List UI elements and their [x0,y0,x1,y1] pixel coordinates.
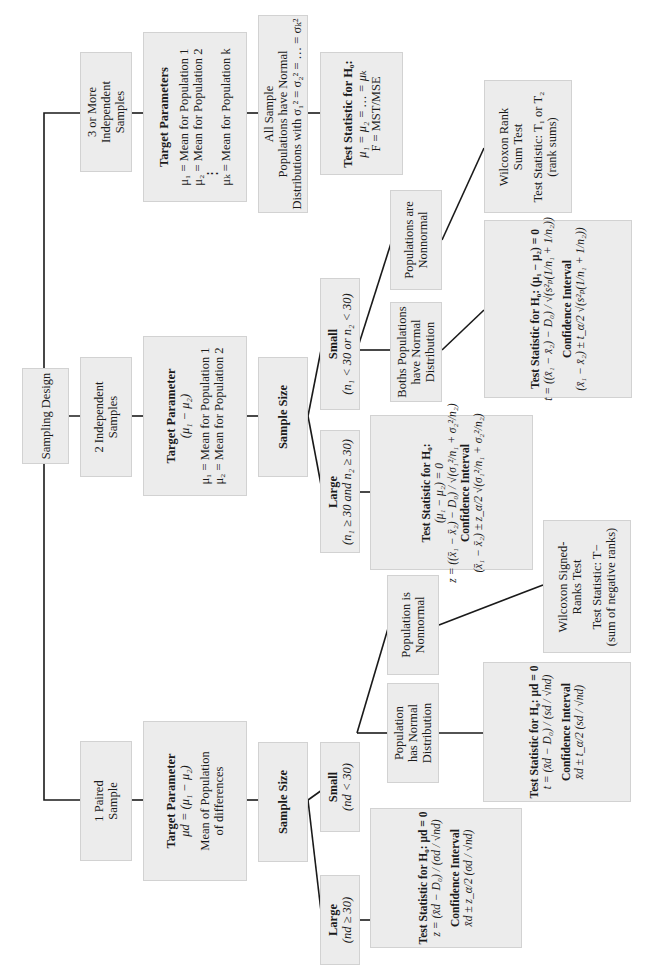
small-2indep-node: Small (n₁ < 30 or n₂ < 30) [320,278,360,410]
target-line: μ₂ = Mean for Population 2 [191,48,205,185]
ci-formula: x̄d ± z_α/2 (σd / √nd) [462,812,475,945]
ci-formula: (x̄₁ − x̄₂) ± t_α/2 √(s²ₚ(1/n₁ + 1/n₂)) [574,217,587,401]
wilcoxon-signed-ranks-node: Wilcoxon Signed- Ranks Test Test Statist… [543,520,631,653]
large-title: Large [326,439,340,545]
test-stat: (sum of negative ranks) [604,527,618,645]
z-test-2indep-node: Test Statistic for H₀: (μ₁ − μ₂) = 0 z =… [370,415,533,570]
two-independent-samples-node: 2 Independent Samples [80,357,132,477]
sample-size-paired-node: Sample Size [258,742,308,862]
large-title: Large [326,897,340,943]
small-condition: (nd < 30) [340,763,354,811]
target-subtitle: (μ₁ − μ₂) [178,347,192,484]
large-paired-node: Large (nd ≥ 30) [320,875,360,965]
ci-title: Confidence Interval [449,812,462,945]
test-line: Ranks Test [570,527,584,645]
small-title: Small [326,293,340,394]
small-paired-node: Small (nd < 30) [320,742,360,832]
one-paired-sample-node: 1 Paired Sample [80,741,132,861]
test-line: Wilcoxon Rank [497,91,511,202]
test-stat: (rank sums) [545,91,559,202]
test-stat: Test Statistic: T− [590,527,604,645]
ci-title: Confidence Interval [560,666,573,799]
condition-line: Population is [399,592,413,658]
large-2indep-node: Large (n₁ ≥ 30 and n₂ ≥ 30) [320,430,360,553]
test-formula: t = ((x̄₁ − x̄₂) − D₀) / √(s²ₚ(1/n₁ + 1/… [542,217,555,401]
large-condition: (nd ≥ 30) [340,897,354,943]
design-line: 1 Paired [92,780,106,821]
condition-line: Population [392,703,406,763]
target-line: μ₂ = Mean for Population 2 [212,347,226,484]
test-title: Test Statistic for H₀: (μ₁ − μ₂) = 0 [529,217,542,401]
target-line: ⋮ [205,48,219,185]
sampling-design-node: Sampling Design [22,368,69,464]
test-title: Test Statistic for H₀: [419,403,432,582]
target-line: of differences [212,751,226,850]
three-or-more-samples-node: 3 or More Independent Samples [80,52,132,172]
test-title: Test Statistic for H₀: μd = 0 [528,666,541,799]
test-hypothesis: (μ₁ − μ₂) = 0 [432,403,445,582]
target-line: μ₁ = Mean for Population 1 [177,48,191,185]
design-line: Samples [106,381,120,452]
condition-line: Boths Populations [395,306,409,397]
condition-line: All Sample [262,19,276,210]
test-formula: t = (x̄d − D₀) / (sd / √nd) [541,666,554,799]
target-line: μ₁ = Mean for Population 1 [198,347,212,484]
design-line: Samples [113,81,127,143]
condition-line: Distributions with σ₁² = σ₂² = … = σₖ² [290,19,304,210]
sample-size-2indep-node: Sample Size [258,357,308,477]
target-title: Target Parameters [157,48,171,185]
ci-formula: x̄d ± t_α/2 (sd / √nd) [573,666,586,799]
t-test-paired-node: Test Statistic for H₀: μd = 0 t = (x̄d −… [483,662,631,802]
test-stat: Test Statistic: T₁ or T₂ [531,91,545,202]
sample-size-label: Sample Size [276,770,290,834]
condition-line: has Normal [406,703,420,763]
population-normal-paired-node: Population has Normal Distribution [387,683,439,783]
test-formula: z = (x̄d − D₀) / (σd / √nd) [430,812,443,945]
sampling-design-label: Sampling Design [39,373,53,459]
z-test-paired-node: Test Statistic for H₀: μd = 0 z = (x̄d −… [370,808,522,948]
condition-line: Populations are [402,201,416,278]
target-subtitle: μd = (μ₁ − μ₂) [178,751,192,850]
f-test-statistic-node: Test Statistic for H₀: μ₁ = μ₂ = … = μₖ … [320,52,403,175]
t-test-2indep-node: Test Statistic for H₀: (μ₁ − μ₂) = 0 t =… [484,220,632,398]
target-line: μₖ = Mean for Population k [219,48,233,185]
large-condition: (n₁ ≥ 30 and n₂ ≥ 30) [340,439,354,545]
design-line: Independent [99,81,113,143]
small-title: Small [326,763,340,811]
all-populations-normal-node: All Sample Populations have Normal Distr… [258,15,308,213]
test-title: Test Statistic for H₀: μd = 0 [417,812,430,945]
condition-line: have Normal [409,306,423,397]
test-line: F = MST/MSE [369,60,383,168]
population-nonnormal-paired-node: Population is Nonnormal [387,575,439,675]
test-line: μ₁ = μ₂ = … = μₖ [355,60,369,168]
small-condition: (n₁ < 30 or n₂ < 30) [340,293,354,394]
condition-line: Nonnormal [413,592,427,658]
target-parameter-paired-node: Target Parameter μd = (μ₁ − μ₂) Mean of … [143,721,247,881]
test-line: Sum Test [511,91,525,202]
condition-line: Populations have Normal [276,19,290,210]
test-formula: z = ((x̄₁ − x̄₂) − D₀) / √(σ₁²/n₁ + σ₂²/… [445,403,458,582]
populations-nonnormal-2indep-node: Populations are Nonnormal [390,190,442,290]
populations-normal-2indep-node: Boths Populations have Normal Distributi… [390,302,442,402]
target-parameter-2indep-node: Target Parameter (μ₁ − μ₂) μ₁ = Mean for… [143,336,247,496]
condition-line: Distribution [423,306,437,397]
test-line: Wilcoxon Signed- [556,527,570,645]
design-line: Sample [106,780,120,821]
test-title: Test Statistic for H₀: [341,60,355,168]
target-line: Mean of Population [198,751,212,850]
design-line: 2 Independent [92,381,106,452]
condition-line: Distribution [420,703,434,763]
ci-title: Confidence Interval [458,403,471,582]
ci-title: Confidence Interval [561,217,574,401]
condition-line: Nonnormal [416,201,430,278]
target-title: Target Parameter [164,347,178,484]
wilcoxon-rank-sum-node: Wilcoxon Rank Sum Test Test Statistic: T… [484,80,572,213]
target-parameters-3plus-node: Target Parameters μ₁ = Mean for Populati… [143,32,247,202]
design-line: 3 or More [85,81,99,143]
ci-formula: (x̄₁ − x̄₂) ± z_α/2 √(σ₁²/n₁ + σ₂²/n₂) [471,403,484,582]
target-title: Target Parameter [164,751,178,850]
sample-size-label: Sample Size [276,385,290,449]
